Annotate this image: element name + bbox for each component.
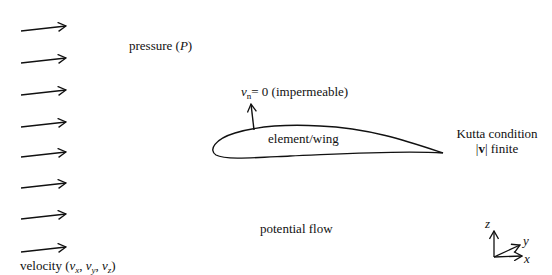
- pressure-close: ): [188, 38, 192, 53]
- inflow-arrow-icon: [21, 122, 66, 127]
- inflow-arrow-icon: [21, 247, 66, 252]
- kutta-line2: |v| finite: [450, 141, 544, 156]
- inflow-arrow-icon: [21, 152, 66, 157]
- inflow-arrow-icon: [21, 90, 66, 95]
- velocity-close: ): [111, 258, 115, 273]
- velocity-label: velocity (vx, vy, vz): [20, 258, 116, 273]
- kutta-line1: Kutta condition: [450, 126, 544, 141]
- axis-y-label: y: [523, 233, 529, 248]
- velocity-text: velocity (: [20, 258, 69, 273]
- inflow-arrows: [21, 26, 66, 252]
- axis-z-label: z: [485, 216, 490, 231]
- pressure-symbol: P: [180, 38, 188, 53]
- inflow-arrow-icon: [21, 58, 66, 63]
- wing-label: element/wing: [268, 131, 339, 146]
- inflow-arrow-icon: [21, 214, 66, 219]
- kutta-finite: finite: [488, 141, 519, 156]
- inflow-arrow-icon: [21, 26, 66, 31]
- kutta-condition-label: Kutta condition |v| finite: [450, 126, 544, 156]
- normal-rest: = 0 (impermeable): [251, 84, 348, 99]
- normal-arrow-icon: [251, 104, 254, 130]
- axis-x-label: x: [524, 251, 530, 266]
- normal-velocity-label: vn= 0 (impermeable): [241, 84, 348, 99]
- coordinate-axes-icon: [494, 231, 522, 257]
- inflow-arrow-icon: [21, 183, 66, 188]
- pressure-label: pressure (P): [129, 38, 192, 53]
- potential-flow-label: potential flow: [260, 221, 333, 236]
- pressure-text: pressure (: [129, 38, 180, 53]
